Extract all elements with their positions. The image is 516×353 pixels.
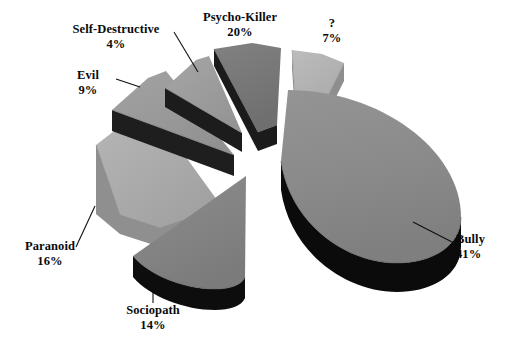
slice-label-unknown-name: ?	[310, 16, 354, 31]
slice-label-sociopath: Sociopath 14%	[108, 303, 198, 333]
slice-label-sociopath-name: Sociopath	[108, 303, 198, 318]
slice-label-bully-value: 41%	[456, 247, 512, 262]
slice-label-bully: Bully 41%	[456, 232, 512, 262]
slice-label-bully-name: Bully	[456, 232, 512, 247]
slice-label-psycho-killer-name: Psycho-Killer	[188, 10, 292, 25]
slice-label-evil-name: Evil	[62, 68, 114, 83]
slice-label-self-destructive-value: 4%	[60, 37, 172, 52]
slice-label-paranoid: Paranoid 16%	[8, 239, 92, 269]
slice-label-unknown: ? 7%	[310, 16, 354, 46]
slice-label-self-destructive: Self-Destructive 4%	[60, 22, 172, 52]
slice-label-paranoid-name: Paranoid	[8, 239, 92, 254]
slice-label-evil-value: 9%	[62, 83, 114, 98]
pie-slice-bully[interactable]	[281, 90, 461, 292]
slice-label-evil: Evil 9%	[62, 68, 114, 98]
leader-line-evil	[116, 79, 140, 87]
slice-label-self-destructive-name: Self-Destructive	[60, 22, 172, 37]
slice-label-sociopath-value: 14%	[108, 318, 198, 333]
slice-label-psycho-killer: Psycho-Killer 20%	[188, 10, 292, 40]
slice-label-psycho-killer-value: 20%	[188, 25, 292, 40]
pie-chart-canvas	[0, 0, 516, 353]
pie-chart-figure: Self-Destructive 4% Psycho-Killer 20% ? …	[0, 0, 516, 353]
slice-label-unknown-value: 7%	[310, 31, 354, 46]
slice-label-paranoid-value: 16%	[8, 254, 92, 269]
